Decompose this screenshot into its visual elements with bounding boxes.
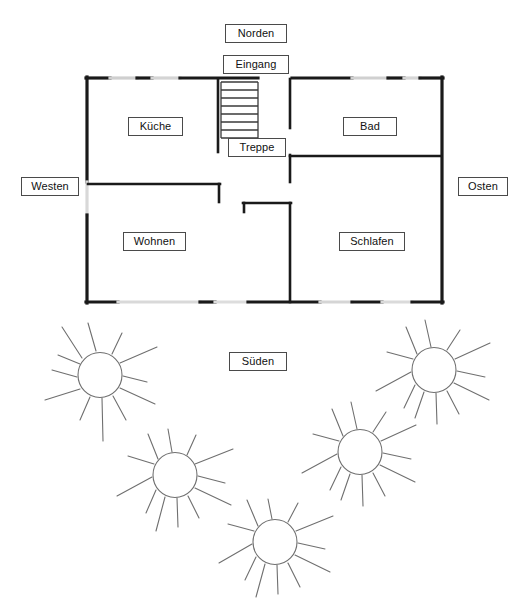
sun-ray [88, 323, 96, 351]
compass-east-text: Osten [468, 181, 498, 192]
sun-ray [387, 352, 413, 359]
sun-ray [168, 429, 172, 452]
sun-ray [351, 402, 357, 429]
sun-ray [383, 453, 411, 459]
sun-ray [341, 474, 350, 500]
sun-ray [380, 465, 415, 482]
sun-ray [117, 477, 152, 496]
sun-ray [148, 434, 158, 459]
sun-ray [362, 475, 363, 506]
sun-ray [120, 347, 157, 363]
sun-ray [457, 371, 485, 377]
sun-5 [376, 320, 490, 424]
room-schlafen-text: Schlafen [350, 236, 394, 247]
sun-ray [436, 393, 437, 424]
compass-label-east: Osten [458, 177, 508, 196]
sun-ray [58, 355, 80, 364]
sun-ray [80, 397, 90, 420]
sun-ray [256, 564, 265, 597]
sun-disc [78, 353, 122, 398]
sun-ray [228, 524, 254, 531]
sun-ray [247, 500, 258, 526]
sun-ray [146, 490, 156, 513]
sun-ray [198, 476, 225, 483]
sun-ray [188, 496, 199, 518]
compass-label-north: Norden [225, 24, 287, 43]
sun-ray [245, 557, 256, 580]
sun-disc [412, 348, 456, 393]
interior-walls [88, 79, 441, 302]
sun-ray [123, 376, 147, 382]
sun-ray [332, 409, 343, 436]
sun-ray [113, 396, 126, 420]
sun-ray [128, 456, 154, 464]
room-bad-text: Bad [360, 121, 380, 132]
compass-west-text: Westen [31, 181, 69, 192]
sun-ray [120, 388, 155, 404]
sun-disc [153, 453, 197, 498]
sun-ray [373, 412, 386, 432]
sun-disc [338, 430, 382, 475]
sun-ray [373, 473, 385, 496]
sun-ray [277, 565, 278, 594]
sun-ray [62, 327, 82, 358]
sun-ray [455, 343, 490, 359]
room-label-treppe: Treppe [228, 138, 286, 157]
sun-ray [381, 425, 416, 441]
sun-ray [447, 330, 460, 350]
room-wohnen-text: Wohnen [134, 236, 175, 247]
sun-ray [406, 327, 417, 354]
entrance-text: Eingang [235, 59, 276, 70]
compass-label-south: Süden [229, 352, 287, 371]
sun-ray [52, 370, 77, 377]
sun-disc [253, 520, 297, 565]
sun-ray [425, 320, 431, 347]
sun-ray [313, 434, 339, 441]
sun-ray [404, 385, 415, 408]
sun-ray [415, 392, 424, 418]
sun-ray [295, 555, 330, 572]
sun-1 [45, 323, 157, 441]
sun-ray [187, 435, 196, 455]
room-label-kueche: Küche [128, 117, 183, 136]
sun-ray [195, 488, 231, 505]
sun-ray [102, 398, 103, 441]
sun-4 [302, 402, 416, 506]
entrance-label: Eingang [223, 55, 289, 74]
sun-ray [268, 499, 272, 519]
sun-ray [156, 497, 165, 531]
room-kueche-text: Küche [140, 121, 172, 132]
sun-2 [117, 429, 233, 531]
room-label-wohnen: Wohnen [123, 232, 186, 251]
room-treppe-text: Treppe [239, 142, 274, 153]
room-label-schlafen: Schlafen [339, 232, 405, 251]
sun-ray [376, 372, 411, 391]
compass-label-west: Westen [21, 177, 79, 196]
sun-ray [302, 454, 337, 473]
sun-ray [330, 467, 341, 490]
sun-ray [112, 333, 122, 354]
sun-ray [195, 449, 233, 464]
floor-plan-drawing [0, 0, 526, 608]
outer-walls [86, 77, 443, 303]
sun-ray [298, 543, 325, 549]
room-label-bad: Bad [343, 117, 397, 136]
compass-north-text: Norden [238, 28, 275, 39]
compass-south-text: Süden [242, 356, 274, 367]
sun-ray [288, 563, 300, 587]
sun-ray [177, 498, 178, 527]
sun-ray [454, 383, 489, 400]
sun-ray [45, 389, 80, 400]
sun-ray [219, 544, 252, 563]
staircase [221, 82, 258, 138]
floor-plan-page: Norden Süden Westen Osten Eingang Küche … [0, 0, 526, 608]
sun-3 [219, 499, 333, 597]
sun-ray [447, 391, 459, 414]
sun-ray [288, 503, 298, 522]
sun-ray [296, 516, 333, 531]
